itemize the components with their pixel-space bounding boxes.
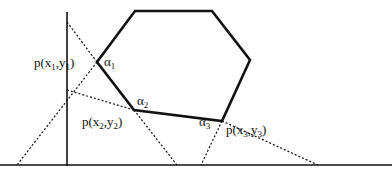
convex-polygon <box>97 11 250 121</box>
label-alpha-1: α1 <box>104 55 115 71</box>
label-point-1: p(x1,y1) <box>34 56 74 72</box>
dotted-line-3 <box>67 90 134 110</box>
dotted-tangent-lines <box>17 22 318 165</box>
label-alpha-3: α3 <box>199 115 210 131</box>
label-point-2: p(x2,y2) <box>82 115 122 131</box>
label-point-3: p(x3,y3) <box>226 123 266 139</box>
diagram-canvas <box>0 0 392 176</box>
label-alpha-2: α2 <box>137 94 148 110</box>
dotted-line-4 <box>134 110 177 165</box>
